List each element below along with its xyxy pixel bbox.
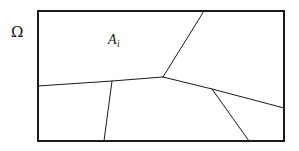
outer-boundary-rectangle bbox=[38, 11, 284, 141]
partition-diagram-canvas bbox=[0, 0, 299, 151]
region-label: Ai bbox=[108, 33, 119, 47]
partition-figure: Ω Ai bbox=[0, 0, 299, 151]
region-label-base: A bbox=[108, 32, 117, 47]
region-label-subscript: i bbox=[117, 39, 120, 49]
domain-symbol-label: Ω bbox=[11, 25, 23, 40]
